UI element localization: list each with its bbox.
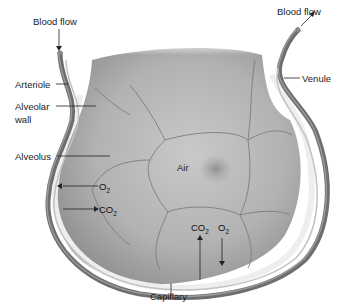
label-o2-left: O2 <box>99 181 110 193</box>
label-air: Air <box>177 162 189 173</box>
label-alveolar-wall-1: Alveolar <box>15 101 49 112</box>
label-capillary: Capillary <box>150 291 187 302</box>
alveolar-spot <box>199 154 233 184</box>
label-arteriole: Arteriole <box>15 79 50 90</box>
label-o2-bottom: O2 <box>218 222 229 234</box>
label-alveolar-wall-2: wall <box>15 114 31 125</box>
label-blood-flow-out: Blood flow <box>277 6 321 17</box>
label-co2-bottom: CO2 <box>191 222 209 234</box>
label-venule: Venule <box>302 73 331 84</box>
label-alveolus: Alveolus <box>15 151 51 162</box>
label-blood-flow-in: Blood flow <box>33 16 77 27</box>
label-co2-left: CO2 <box>99 204 117 216</box>
